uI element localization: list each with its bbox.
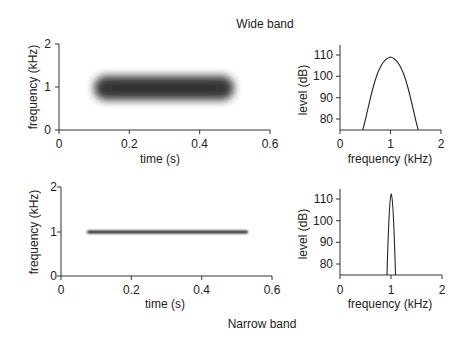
x-tick-label: 1 xyxy=(387,137,394,151)
x-tick-label: 2 xyxy=(438,137,445,151)
y-tick-label: 100 xyxy=(313,69,333,83)
x-tick-label: 0.6 xyxy=(264,283,281,297)
title-narrow-band: Narrow band xyxy=(228,317,297,331)
spectrum-curve xyxy=(363,57,419,130)
x-tick-label: 0.2 xyxy=(121,137,138,151)
y-axis-label: level (dB) xyxy=(296,209,310,260)
y-axis-label: level (dB) xyxy=(296,65,310,116)
y-tick-label: 110 xyxy=(314,192,333,206)
y-tick-label: 110 xyxy=(314,48,333,62)
y-tick-label: 90 xyxy=(320,235,334,249)
x-tick-label: 0 xyxy=(58,283,65,297)
y-tick-label: 0 xyxy=(44,123,51,137)
x-axis-label: frequency (kHz) xyxy=(348,297,433,311)
y-tick-label: 90 xyxy=(320,91,334,105)
x-tick-label: 0.4 xyxy=(193,283,210,297)
y-tick-label: 2 xyxy=(50,180,57,194)
y-tick-label: 80 xyxy=(320,112,334,126)
x-axis-label: time (s) xyxy=(145,297,185,311)
wide-spectrum: 110 100 90 80 0 1 2 frequency (kHz) leve… xyxy=(296,45,445,166)
narrow-spectrogram: 2 1 0 0 0.2 0.4 0.6 time (s) frequency (… xyxy=(27,180,281,311)
y-tick-label: 0 xyxy=(50,269,57,283)
x-tick-label: 0.2 xyxy=(123,283,140,297)
y-tick-label: 100 xyxy=(313,214,333,228)
figure: Wide band Narrow band 2 1 0 0 0.2 0.4 0.… xyxy=(0,0,467,348)
x-tick-label: 0 xyxy=(56,137,63,151)
x-tick-label: 2 xyxy=(439,283,446,297)
x-tick-label: 1 xyxy=(388,283,395,297)
y-axis-label: frequency (kHz) xyxy=(27,190,41,275)
title-wide-band: Wide band xyxy=(236,17,293,31)
narrow-band-energy xyxy=(87,231,248,234)
x-tick-label: 0.6 xyxy=(262,137,279,151)
wide-spectrogram: 2 1 0 0 0.2 0.4 0.6 time (s) frequency (… xyxy=(26,37,279,166)
y-tick-label: 1 xyxy=(50,225,57,239)
y-tick-label: 2 xyxy=(44,37,51,51)
x-tick-label: 0 xyxy=(337,137,344,151)
x-tick-label: 0.4 xyxy=(191,137,208,151)
y-tick-label: 1 xyxy=(44,80,51,94)
x-axis-label: frequency (kHz) xyxy=(348,152,433,166)
spectrum-curve xyxy=(387,194,396,275)
narrow-spectrum: 110 100 90 80 0 1 2 frequency (kHz) leve… xyxy=(296,189,446,311)
y-tick-label: 80 xyxy=(320,257,334,271)
x-tick-label: 0 xyxy=(337,283,344,297)
wide-band-energy xyxy=(94,76,234,100)
x-axis-label: time (s) xyxy=(140,152,180,166)
y-axis-label: frequency (kHz) xyxy=(26,45,40,130)
